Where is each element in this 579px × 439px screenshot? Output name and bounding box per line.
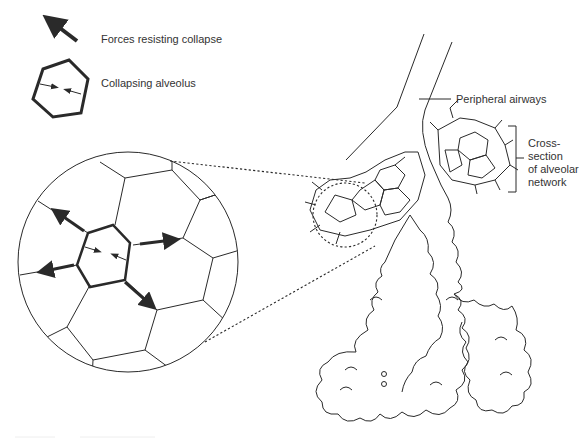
- collapsing-alveolus-legend-icon: [33, 60, 88, 117]
- left-alveolar-cluster: [305, 152, 425, 244]
- cross-section-label-line2: section: [528, 150, 563, 163]
- cross-section-label-line3: of alveolar: [528, 163, 579, 176]
- legend-collapsing-label: Collapsing alveolus: [101, 77, 196, 90]
- cross-section-label-line1: Cross-: [528, 137, 560, 150]
- alveolar-sacs: [316, 198, 531, 421]
- cross-section-bracket: [508, 126, 524, 192]
- cross-section-label-line4: network: [528, 176, 567, 189]
- magnified-alveolar-network: [18, 152, 240, 380]
- legend-forces-label: Forces resisting collapse: [101, 33, 222, 46]
- peripheral-airways-label: Peripheral airways: [456, 93, 546, 106]
- force-arrow-legend-icon: [52, 22, 77, 41]
- magnification-lines: [170, 161, 377, 342]
- cross-section-alveolar-network: [430, 100, 518, 194]
